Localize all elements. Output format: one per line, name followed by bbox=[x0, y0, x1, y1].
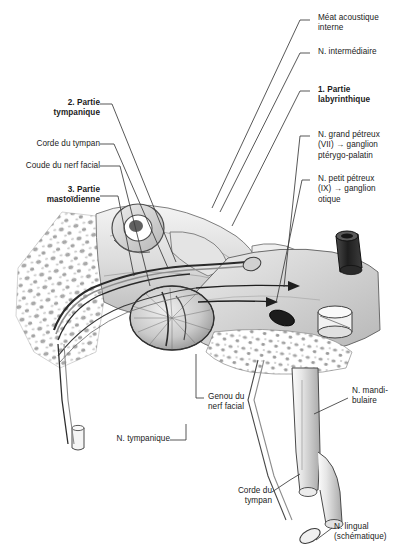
semicircular-canal bbox=[112, 204, 164, 253]
label-partie-mastoidienne: 3. Partie mastoïdienne bbox=[0, 185, 100, 206]
mastoid-air-cells bbox=[16, 212, 104, 368]
label-nerf-mandibulaire: N. mandi- bulaire bbox=[352, 386, 388, 407]
label-nerf-lingual: N. lingual (schématique) bbox=[334, 522, 387, 543]
mandibular-nerve-trunk bbox=[292, 368, 343, 529]
label-corde-du-tympan-bas: Corde du tympan bbox=[190, 486, 272, 507]
tympanic-membrane bbox=[130, 286, 214, 350]
label-nerf-petit-petreux: N. petit pétreux (IX) → ganglion otique bbox=[318, 174, 376, 205]
label-nerf-tympanique: N. tympanique bbox=[62, 434, 170, 444]
label-meat-acoustique-interne: Méat acoustique interne bbox=[318, 13, 379, 34]
label-nerf-intermediaire: N. intermédiaire bbox=[318, 47, 377, 57]
otic-ganglion bbox=[318, 306, 352, 338]
label-corde-du-tympan-haut: Corde du tympan bbox=[0, 139, 100, 149]
label-partie-tympanique: 2. Partie tympanique bbox=[0, 98, 100, 119]
label-partie-labyrinthique: 1. Partie labyrinthique bbox=[318, 85, 370, 106]
anatomy-illustration bbox=[0, 0, 401, 556]
label-coude-du-nerf-facial: Coude du nerf facial bbox=[0, 161, 100, 171]
label-genou-du-nerf-facial: Genou du nerf facial bbox=[208, 392, 244, 413]
anatomical-figure: Méat acoustique interne N. intermédiaire… bbox=[0, 0, 401, 556]
pterygopalatine-ganglion bbox=[336, 231, 362, 275]
label-nerf-grand-petreux: N. grand pétreux (VII) → ganglion ptéryg… bbox=[318, 130, 380, 161]
